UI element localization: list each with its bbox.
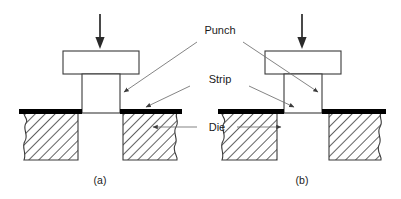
strip-label: Strip — [209, 73, 232, 85]
figure-root: Punch Strip Die (a) (b) — [0, 0, 401, 199]
caption-a: (a) — [94, 174, 107, 186]
caption-b: (b) — [296, 174, 309, 186]
punching-die-diagram: Punch Strip Die (a) (b) — [0, 0, 401, 199]
punch-label: Punch — [204, 24, 235, 36]
figure-background — [0, 0, 401, 199]
die-label: Die — [209, 121, 226, 133]
